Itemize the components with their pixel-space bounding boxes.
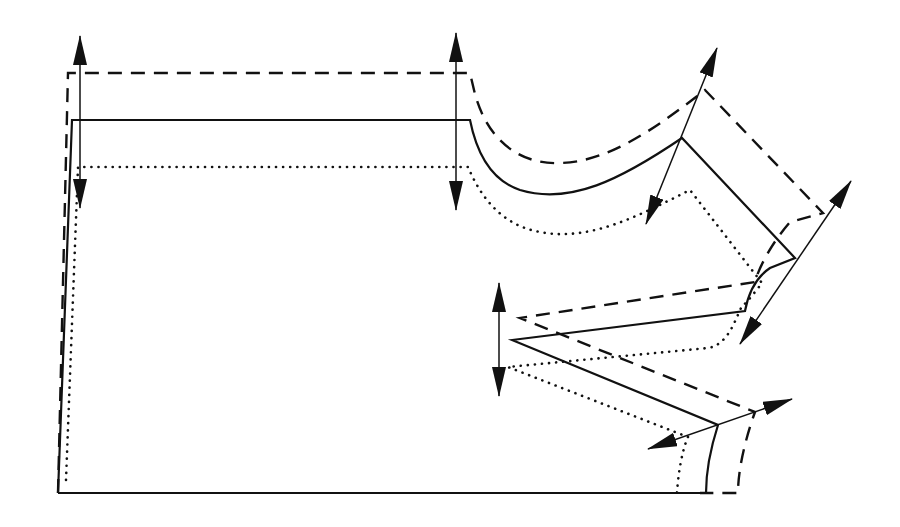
arrow-side-waist (648, 399, 792, 449)
pattern-grading-diagram (0, 0, 900, 527)
arrow-shoulder-tip (740, 181, 851, 344)
grading-arrows (80, 33, 851, 449)
smaller-size-outline (66, 167, 762, 493)
arrow-shoulder-neck (646, 48, 717, 224)
larger-size-outline (58, 73, 823, 493)
